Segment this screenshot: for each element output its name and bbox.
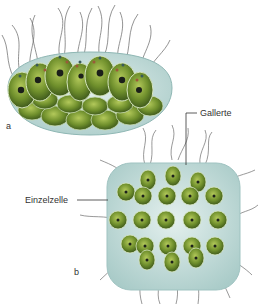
panel-b-letter: b [74, 267, 79, 277]
colony-b [80, 125, 258, 304]
colony-illustration [0, 0, 263, 304]
colony-a [2, 5, 172, 135]
label-einzelzelle: Einzelzelle [25, 195, 68, 205]
panel-a-letter: a [6, 121, 11, 131]
label-gallerte: Gallerte [200, 108, 232, 118]
